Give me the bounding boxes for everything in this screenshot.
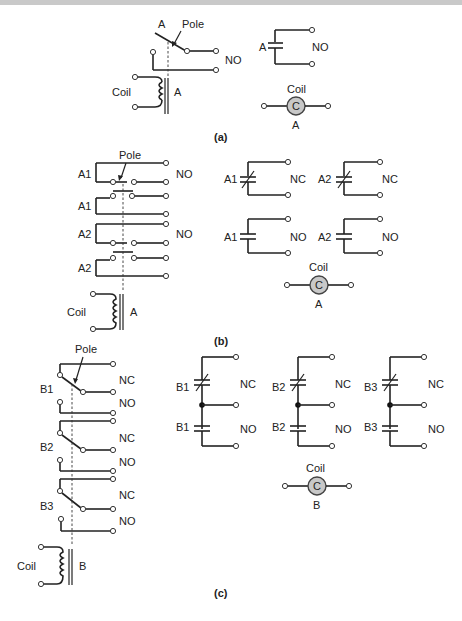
no-type: NO [382,231,399,243]
no-type: NO [290,231,307,243]
contact-a2b-label: A2 [78,262,91,274]
nc-label: B1 [176,381,189,393]
no-label: NO [119,397,136,409]
coil-id: B [79,560,86,572]
contact-type: NO [176,168,193,180]
nc-label: A1 [224,173,237,185]
group-b3: B3 NC B3 NO [364,354,445,448]
pole-blade [155,33,186,51]
pole-b1-label: B1 [40,383,53,395]
coil-symbol-letter: C [315,279,323,291]
nc-type: NC [335,378,351,390]
no-label: B2 [272,421,285,433]
caption-c: (c) [214,587,228,599]
panel-b: Pole A1 NO A1 A [67,149,399,347]
panel-b-relay: Pole A1 NO A1 A [67,149,193,332]
coil-bottom-label: A [292,119,300,131]
contact-type: NO [225,54,242,66]
panel-c-schematic: B1 NC B1 NO B2 NC B2 NO [176,354,445,511]
coil-bottom-label: A [315,298,323,310]
contact-a1-label: A1 [78,168,91,180]
nc-label: B3 [364,381,377,393]
caption-a: (a) [214,131,228,143]
coil-label: Coil [67,306,86,318]
caption-b: (b) [214,335,228,347]
contact-type: NO [312,41,329,53]
group-b2: B2 NC B2 NO [272,354,352,448]
nc-type: NC [428,378,444,390]
nc-label: NC [119,432,135,444]
coil-label: Coil [112,86,131,98]
contact-label: A [259,41,267,53]
nc-label: NC [119,374,135,386]
no-label: NO [119,456,136,468]
panel-a-schematic: A NO Coil C A [259,27,331,131]
no-label: B1 [176,421,189,433]
no-label: B3 [364,421,377,433]
nc-type: NC [240,378,256,390]
contact-a2-label: A2 [78,228,91,240]
coil-top-label: Coil [309,261,328,273]
no-label: NO [119,515,136,527]
contact-type: NO [176,228,193,240]
pole-arrow [174,31,181,44]
coil-top-label: Coil [306,462,325,474]
nc-type: NC [290,173,306,185]
coil-top-label: Coil [287,83,306,95]
coil-id: A [130,306,138,318]
panel-c-relay: Pole B1 NC NO B2 NC [17,343,136,587]
no-type: NO [335,423,352,435]
coil-symbol-letter: C [313,480,321,492]
panel-a-relay: A Pole NO Coil A [112,18,242,114]
relay-diagram: A Pole NO Coil A A [0,0,462,621]
pole-label: Pole [119,149,141,161]
no-type: NO [240,423,257,435]
coil-winding [138,77,162,107]
contact-label: A [158,18,166,30]
contact-a1b-label: A1 [78,200,91,212]
pole-b3-label: B3 [40,500,53,512]
group-b1: B1 NC B1 NO [176,354,257,448]
panel-b-schematic: A1 NC A2 NC A1 N [224,159,399,310]
nc-label: NC [119,489,135,501]
nc-type: NC [382,173,398,185]
no-label: A2 [318,231,331,243]
coil-id: A [174,86,182,98]
coil-bottom-label: B [313,499,320,511]
coil-symbol-letter: C [292,100,300,112]
panel-c: Pole B1 NC NO B2 NC [17,343,445,599]
pole-label: Pole [75,343,97,355]
pole-b2-label: B2 [40,441,53,453]
no-label: A1 [224,231,237,243]
nc-label: A2 [318,173,331,185]
no-type: NO [428,423,445,435]
panel-a: A Pole NO Coil A A [112,18,331,143]
nc-label: B2 [272,381,285,393]
pole-label: Pole [182,18,204,30]
coil-label: Coil [17,560,36,572]
